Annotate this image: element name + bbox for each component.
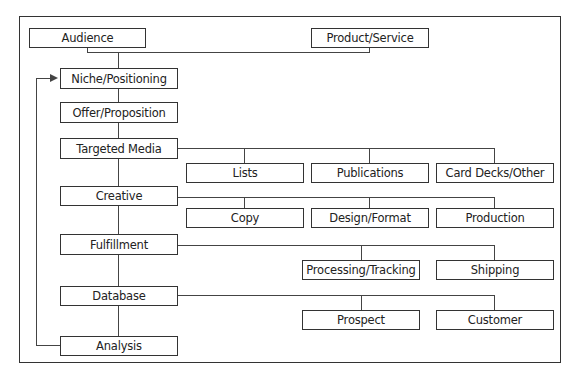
node-customer: Customer — [436, 310, 554, 330]
connector — [177, 245, 495, 246]
node-targeted-media: Targeted Media — [60, 138, 178, 159]
connector — [494, 197, 495, 208]
connector — [244, 148, 245, 163]
node-production: Production — [436, 208, 554, 228]
arrow-right-icon — [50, 74, 58, 82]
connector — [244, 197, 245, 208]
node-audience: Audience — [29, 28, 146, 48]
connector — [177, 295, 495, 296]
connector — [494, 295, 495, 310]
feedback-loop — [36, 78, 37, 346]
connector — [361, 295, 362, 310]
connector — [494, 148, 495, 163]
node-publications: Publications — [311, 163, 429, 183]
connector — [177, 148, 495, 149]
node-lists: Lists — [186, 163, 304, 183]
connector — [87, 52, 370, 53]
node-offer-proposition: Offer/Proposition — [60, 102, 178, 123]
node-fulfillment: Fulfillment — [60, 234, 178, 255]
node-design-format: Design/Format — [311, 208, 429, 228]
node-creative: Creative — [60, 186, 178, 206]
node-card-decks-other: Card Decks/Other — [436, 163, 554, 183]
connector — [494, 245, 495, 260]
node-product-service: Product/Service — [311, 28, 429, 48]
connector — [361, 245, 362, 260]
feedback-loop — [36, 345, 60, 346]
node-shipping: Shipping — [436, 260, 554, 280]
node-database: Database — [60, 286, 178, 306]
node-niche-positioning: Niche/Positioning — [60, 68, 178, 89]
node-copy: Copy — [186, 208, 304, 228]
connector — [177, 197, 495, 198]
connector — [369, 148, 370, 163]
node-processing-tracking: Processing/Tracking — [302, 260, 420, 280]
connector — [369, 197, 370, 208]
node-prospect: Prospect — [302, 310, 420, 330]
node-analysis: Analysis — [60, 336, 178, 356]
